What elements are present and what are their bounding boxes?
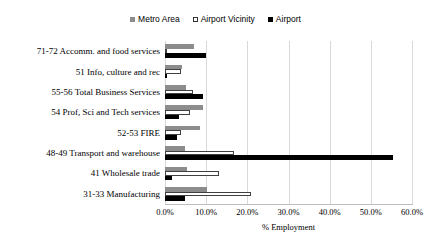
legend-label-metro-area: Metro Area xyxy=(138,14,180,24)
gridline xyxy=(412,41,413,204)
x-tick-label: 30.0% xyxy=(278,207,300,218)
x-tick-label: 20.0% xyxy=(236,207,258,218)
chart-legend: Metro Area Airport Vicinity Airport xyxy=(0,14,431,24)
bar-airport xyxy=(165,176,172,181)
bar-airport xyxy=(165,115,179,120)
bar-airport xyxy=(165,94,203,99)
category-label: 52-53 FIRE xyxy=(117,128,160,138)
plot-area xyxy=(165,41,412,204)
employment-bar-chart: Metro Area Airport Vicinity Airport 71-7… xyxy=(0,0,431,249)
bar-airport xyxy=(165,53,206,58)
legend-entry-airport-vicinity: Airport Vicinity xyxy=(193,14,255,24)
gridline xyxy=(206,41,207,204)
legend-entry-airport: Airport xyxy=(268,14,301,24)
x-axis-tick-labels: 0.0%10.0%20.0%30.0%40.0%50.0%60.0% xyxy=(0,207,431,219)
gridline xyxy=(247,41,248,204)
legend-label-airport: Airport xyxy=(276,14,301,24)
x-axis-title: % Employment xyxy=(165,222,412,233)
gridline xyxy=(330,41,331,204)
gridline xyxy=(289,41,290,204)
x-tick-label: 50.0% xyxy=(360,207,382,218)
bar-airport xyxy=(165,74,167,79)
x-tick-label: 60.0% xyxy=(401,207,423,218)
square-outline-icon xyxy=(193,17,198,22)
x-axis-baseline xyxy=(165,204,413,205)
bar-airport xyxy=(165,196,185,201)
x-tick-label: 10.0% xyxy=(195,207,217,218)
square-filled-gray-icon xyxy=(130,17,135,22)
category-label: 31-33 Manufacturing xyxy=(83,189,160,199)
bar-airport-vicinity xyxy=(165,171,219,176)
legend-label-airport-vicinity: Airport Vicinity xyxy=(201,14,255,24)
bar-metro-area xyxy=(165,44,194,49)
bar-airport xyxy=(165,135,177,140)
bar-airport-vicinity xyxy=(165,69,181,74)
category-label: 55-56 Total Business Services xyxy=(52,87,160,97)
x-tick-label: 40.0% xyxy=(319,207,341,218)
category-label: 51 Info, culture and rec xyxy=(76,67,160,77)
category-label: 71-72 Accomm. and food services xyxy=(37,46,160,56)
gridline xyxy=(371,41,372,204)
category-label: 54 Prof, Sci and Tech services xyxy=(51,107,160,117)
category-label: 41 Wholesale trade xyxy=(91,168,160,178)
square-filled-black-icon xyxy=(268,17,273,22)
category-label: 48-49 Transport and warehouse xyxy=(46,148,160,158)
legend-entry-metro-area: Metro Area xyxy=(130,14,180,24)
bar-airport xyxy=(165,155,393,160)
category-axis-labels: 71-72 Accomm. and food services51 Info, … xyxy=(0,41,163,204)
x-tick-label: 0.0% xyxy=(156,207,174,218)
